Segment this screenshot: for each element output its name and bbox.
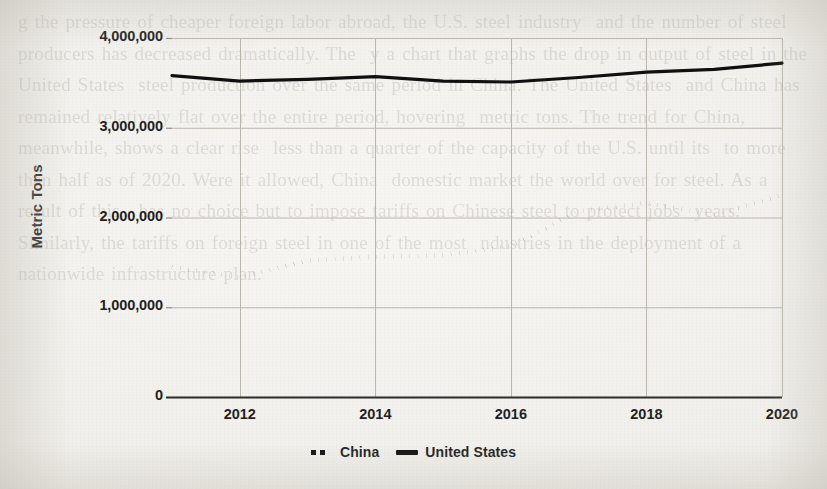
chart-legend: China United States — [0, 444, 827, 460]
y-tick-label: 3,000,000 — [99, 118, 163, 134]
plot-area — [0, 0, 827, 489]
legend-item-china: China — [311, 444, 379, 460]
x-tick-label: 2014 — [345, 406, 405, 422]
y-tick-label: 1,000,000 — [99, 297, 163, 313]
scanned-page: g the pressure of cheaper foreign labor … — [0, 0, 827, 489]
y-tick-label: 0 — [155, 387, 163, 403]
x-tick-label: 2018 — [616, 406, 676, 422]
y-tick-label: 4,000,000 — [99, 28, 163, 44]
series-line-united-states — [172, 63, 782, 82]
solid-line-swatch-icon — [396, 450, 418, 455]
legend-label-united-states: United States — [425, 444, 516, 460]
x-tick-label: 2016 — [481, 406, 541, 422]
series-layer — [172, 63, 782, 278]
series-line-china — [172, 195, 782, 278]
y-axis-title: Metric Tons — [28, 147, 45, 267]
x-tick-label: 2020 — [752, 406, 812, 422]
gridlines — [166, 39, 782, 398]
legend-item-united-states: United States — [396, 444, 516, 460]
line-chart: Metric Tons 01,000,0002,000,0003,000,000… — [0, 0, 827, 489]
y-tick-label: 2,000,000 — [99, 208, 163, 224]
x-tick-label: 2012 — [210, 406, 270, 422]
legend-label-china: China — [340, 444, 379, 460]
dotted-line-swatch-icon — [311, 450, 333, 455]
